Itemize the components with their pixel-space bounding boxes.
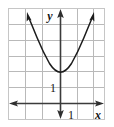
- y-axis-label: y: [45, 9, 53, 23]
- coordinate-plane-graph: y x 1 1: [0, 0, 114, 127]
- graph-figure: y x 1 1: [0, 0, 114, 127]
- x-axis-tick-label-1: 1: [68, 108, 74, 122]
- y-axis-tick-label-1: 1: [50, 81, 56, 95]
- x-axis-label: x: [94, 108, 101, 122]
